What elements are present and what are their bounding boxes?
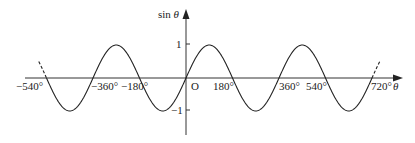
y-axis-arrow-icon	[183, 9, 190, 19]
x-axis-label: θ	[393, 80, 399, 92]
x-tick-label-neg360: −360°	[91, 80, 118, 92]
sine-curve-dashed-left	[39, 62, 47, 79]
origin-label: O	[191, 80, 199, 92]
y-tick-label-neg1: −1	[171, 104, 183, 116]
x-tick-label-540: 540°	[306, 80, 327, 92]
x-tick-label-360: 360°	[279, 80, 300, 92]
x-tick-label-neg180: −180°	[121, 80, 148, 92]
sine-curve-dashed-right	[372, 62, 380, 79]
x-tick-label-neg540: −540°	[16, 80, 43, 92]
x-tick-label-720: 720°	[371, 80, 392, 92]
y-tick-label-1: 1	[176, 38, 182, 50]
x-tick-label-180: 180°	[213, 80, 234, 92]
sine-chart: sin θ 1 −1 O −540° −360° −180° 180° 360°…	[0, 0, 415, 143]
y-axis-label: sin θ	[158, 8, 180, 20]
